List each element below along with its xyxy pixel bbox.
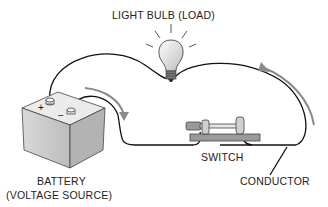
battery-icon bbox=[22, 92, 105, 168]
arrow-head-icon bbox=[119, 112, 129, 121]
arrow-head-icon bbox=[258, 62, 270, 72]
current-flow-arrow bbox=[85, 67, 314, 125]
switch-label: SWITCH bbox=[201, 151, 244, 163]
conductor-label: CONDUCTOR bbox=[240, 175, 310, 187]
battery-label: BATTERY bbox=[37, 175, 86, 187]
battery-voltage-source-label: (VOLTAGE SOURCE) bbox=[6, 189, 112, 201]
negative-terminal-label: − bbox=[58, 110, 64, 121]
positive-terminal-label: + bbox=[38, 102, 44, 113]
switch-icon bbox=[186, 117, 260, 141]
light-bulb-icon bbox=[146, 24, 196, 82]
light-bulb-label: LIGHT BULB (LOAD) bbox=[112, 9, 215, 21]
